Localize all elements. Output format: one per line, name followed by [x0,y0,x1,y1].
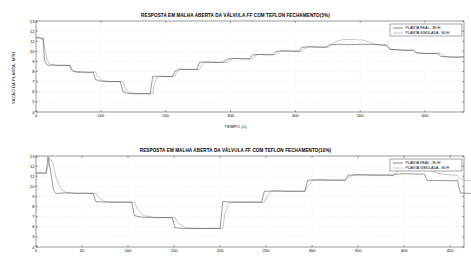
svg-text:8: 8 [32,204,35,209]
svg-text:0: 0 [35,113,38,118]
chart-bottom: RESPOSTA EM MALHA ABERTA DA VÁLVULA FF C… [0,135,471,269]
svg-text:7: 7 [32,214,35,219]
svg-text:250: 250 [263,248,270,253]
svg-text:600: 600 [422,113,429,118]
svg-text:9: 9 [32,194,35,199]
chart-bottom-plot: 0501001502002503003504004504567891011121… [0,135,471,269]
svg-text:450: 450 [447,248,454,253]
svg-text:5: 5 [32,234,35,239]
svg-text:PLANTA SIMULADA - M³/H: PLANTA SIMULADA - M³/H [406,31,450,35]
svg-text:100: 100 [98,113,105,118]
svg-text:6: 6 [32,89,35,94]
figure-container: RESPOSTA EM MALHA ABERTA DA VÁLVULA FF C… [0,0,471,269]
chart-top: RESPOSTA EM MALHA ABERTA DA VÁLVULA FF C… [0,0,471,134]
svg-text:13: 13 [30,154,35,159]
svg-text:12: 12 [30,164,35,169]
svg-text:300: 300 [227,113,234,118]
svg-text:0: 0 [35,248,38,253]
svg-text:200: 200 [217,248,224,253]
svg-text:200: 200 [162,113,169,118]
svg-text:PLANTA REAL - M³/H: PLANTA REAL - M³/H [406,26,441,30]
svg-text:6: 6 [32,224,35,229]
svg-text:12: 12 [30,29,35,34]
svg-text:350: 350 [355,248,362,253]
svg-text:PLANTA REAL - M³/H: PLANTA REAL - M³/H [406,161,441,165]
svg-text:10: 10 [30,49,35,54]
svg-text:PLANTA SIMULADA - M³/H: PLANTA SIMULADA - M³/H [406,166,450,170]
svg-text:13: 13 [30,19,35,24]
svg-text:7: 7 [32,79,35,84]
svg-text:400: 400 [401,248,408,253]
svg-text:300: 300 [309,248,316,253]
svg-text:500: 500 [357,113,364,118]
svg-text:5: 5 [32,99,35,104]
svg-text:50: 50 [80,248,85,253]
svg-text:400: 400 [292,113,299,118]
svg-text:100: 100 [125,248,132,253]
svg-text:11: 11 [30,39,35,44]
svg-text:150: 150 [171,248,178,253]
svg-text:8: 8 [32,69,35,74]
svg-text:9: 9 [32,59,35,64]
svg-text:10: 10 [30,184,35,189]
chart-top-plot: 010020030040050060045678910111213PLANTA … [0,0,471,134]
svg-text:11: 11 [30,174,35,179]
